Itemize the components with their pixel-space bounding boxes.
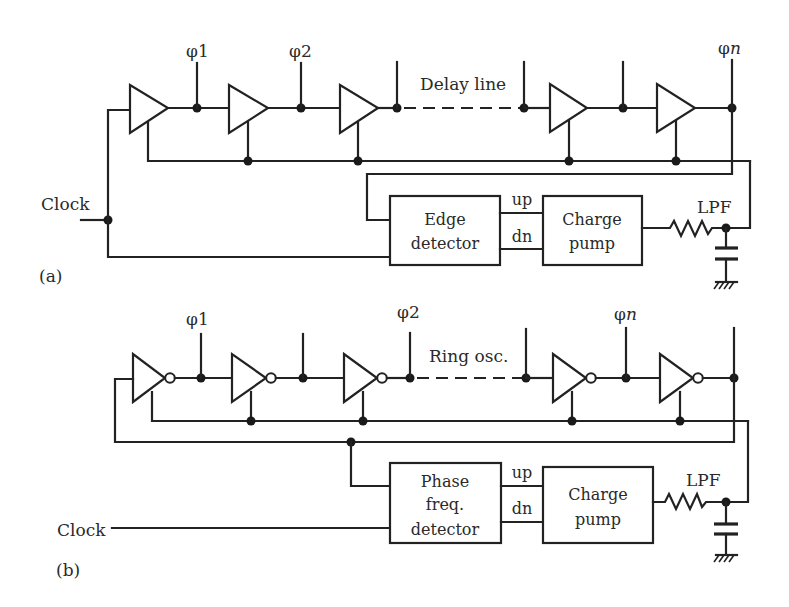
delay-line-title: Delay line (420, 74, 506, 94)
phase-label-phin: φn (718, 38, 741, 58)
inverter-stage-1 (133, 354, 165, 402)
pfd-label-line3: detector (411, 520, 480, 539)
clock-to-delay-line-wire (108, 110, 130, 220)
charge-pump-block (543, 196, 642, 265)
clock-label: Clock (41, 194, 90, 214)
lpf-resistor (642, 161, 750, 236)
junction-dot (247, 417, 256, 426)
up-label: up (512, 190, 533, 209)
inverter-stage-n-1 (553, 354, 586, 402)
clock-to-detector-wire (108, 220, 390, 257)
lpf-label: LPF (686, 470, 721, 490)
edge-detector-label-line2: detector (411, 234, 480, 253)
junction-dot (354, 157, 363, 166)
charge-pump-label-line1: Charge (562, 210, 621, 229)
junction-dot (565, 157, 574, 166)
ring-feedback-wire (115, 378, 734, 442)
pfd-label-line1: Phase (421, 472, 469, 491)
ground-icon (714, 555, 737, 562)
phase-label-phi2: φ2 (397, 302, 420, 322)
charge-pump-label-line2: pump (569, 234, 615, 253)
phase-label-phi1: φ1 (186, 41, 209, 61)
junction-dot (676, 417, 685, 426)
edge-detector-block (390, 196, 500, 265)
up-label: up (512, 463, 533, 482)
panel-label-a: (a) (39, 266, 62, 286)
inverter-bubble (693, 373, 703, 383)
junction-dot (568, 417, 577, 426)
charge-pump-block (543, 467, 653, 543)
clock-label: Clock (57, 520, 106, 540)
inverter-bubble (165, 373, 175, 383)
junction-dot (244, 157, 253, 166)
panel-b-phase-locked-loop: Clock Phase freq. detector up dn Charge … (56, 302, 748, 580)
inverter-bubble (586, 373, 596, 383)
inverter-bubble (377, 373, 387, 383)
phase-label-phin: φn (614, 304, 637, 324)
junction-dot (672, 157, 681, 166)
inverter-stage-n (660, 354, 693, 402)
ground-icon (714, 282, 737, 289)
dn-label: dn (512, 499, 533, 518)
charge-pump-label-line1: Charge (568, 485, 627, 504)
edge-detector-label-line1: Edge (424, 210, 466, 229)
ring-osc-title: Ring osc. (429, 346, 508, 366)
dn-label: dn (512, 227, 533, 246)
inverter-bubble (266, 373, 276, 383)
panel-a-delay-locked-loop: Edge detector up dn Charge pump LPF φ1 φ… (39, 38, 750, 289)
osc-to-detector-wire (351, 442, 390, 486)
phase-label-phi2: φ2 (289, 41, 312, 61)
panel-label-b: (b) (56, 560, 80, 580)
junction-dot (359, 417, 368, 426)
lpf-label: LPF (697, 197, 732, 217)
inverter-stage-3 (344, 354, 377, 402)
phase-label-phi1: φ1 (186, 309, 209, 329)
inverter-stage-2 (232, 354, 266, 402)
dll-pll-diagram: Edge detector up dn Charge pump LPF φ1 φ… (0, 0, 789, 607)
pfd-label-line2: freq. (426, 495, 464, 514)
charge-pump-label-line2: pump (575, 510, 621, 529)
